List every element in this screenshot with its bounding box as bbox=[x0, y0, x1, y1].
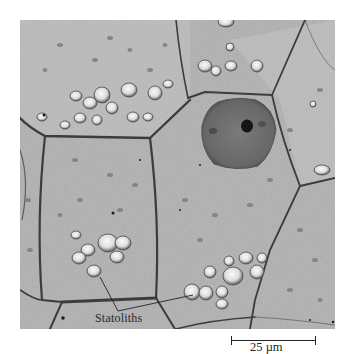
scale-bar-label: 25 µm bbox=[250, 340, 283, 354]
scale-bar-tick-left bbox=[231, 336, 232, 345]
statoliths-label: Statoliths bbox=[95, 311, 142, 326]
scale-bar-tick-right bbox=[315, 336, 316, 345]
nucleus bbox=[202, 98, 276, 168]
micrograph-image bbox=[20, 20, 335, 329]
nucleolus bbox=[241, 120, 253, 133]
micrograph-figure: Statoliths 25 µm bbox=[0, 0, 350, 354]
